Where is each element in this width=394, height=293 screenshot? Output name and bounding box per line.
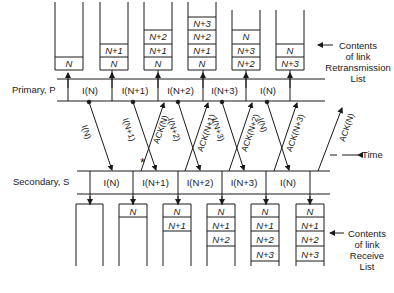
secondary-frame: I(N): [90, 178, 133, 188]
transmission-label: I(N+1): [121, 117, 137, 142]
rx-cell: N: [296, 207, 324, 217]
retx-cell: N+3: [276, 59, 304, 69]
rx-cell: N+2: [296, 235, 324, 245]
ack-label: ACK(N+2): [240, 113, 261, 153]
ack-label: ACK(N+3): [285, 113, 306, 153]
retx-cell: N+1: [188, 46, 216, 56]
retx-cell: N: [276, 46, 304, 56]
primary-frame: I(N+1): [112, 86, 158, 96]
rx-cell: N+3: [296, 250, 324, 260]
receive-caption: Contents of link Receive List: [340, 228, 394, 272]
rx-cell: N+1: [251, 221, 279, 231]
primary-frame: I(N): [68, 86, 112, 96]
retx-cell: N+2: [232, 59, 260, 69]
secondary-label: Secondary, S: [13, 177, 69, 187]
rx-cell: N: [163, 207, 191, 217]
rx-cell: N+1: [207, 221, 235, 231]
ack-label: ACK(N): [338, 112, 356, 142]
rx-cell: N+1: [296, 221, 324, 231]
retx-cell: N+1: [144, 46, 172, 56]
retx-cell: N: [100, 59, 128, 69]
transmission-label: I(N): [80, 124, 93, 140]
secondary-frame: I(N+3): [222, 178, 266, 188]
error-marker-icon: *: [140, 156, 145, 169]
retx-cell: N: [188, 59, 216, 69]
rx-cell: N: [251, 207, 279, 217]
retx-cell: N: [144, 59, 172, 69]
retx-cell: N+3: [188, 19, 216, 29]
secondary-frame: I(N+1): [133, 178, 178, 188]
rx-cell: N+1: [163, 221, 191, 231]
retx-cell: N+1: [100, 46, 128, 56]
rx-cell: N+3: [251, 250, 279, 260]
retransmission-caption: Contents of link Retransmission List: [322, 40, 394, 84]
primary-frame: I(N+2): [158, 86, 203, 96]
rx-cell: N+2: [251, 235, 279, 245]
primary-frame: I(N+3): [203, 86, 246, 96]
primary-frame: I(N): [246, 86, 290, 96]
retx-cell: N+2: [144, 32, 172, 42]
retx-cell: N: [55, 59, 83, 69]
retx-cell: N+2: [188, 32, 216, 42]
time-label: Time: [362, 150, 383, 160]
retx-cell: N+3: [232, 46, 260, 56]
primary-label: Primary, P: [12, 85, 56, 95]
rx-cell: N: [207, 207, 235, 217]
retx-cell: N: [232, 32, 260, 42]
secondary-frame: I(N+2): [178, 178, 222, 188]
rx-cell: N+2: [207, 235, 235, 245]
ack-label: ACK(N): [152, 114, 170, 144]
secondary-frame: I(N): [266, 178, 310, 188]
rx-cell: N: [119, 207, 147, 217]
